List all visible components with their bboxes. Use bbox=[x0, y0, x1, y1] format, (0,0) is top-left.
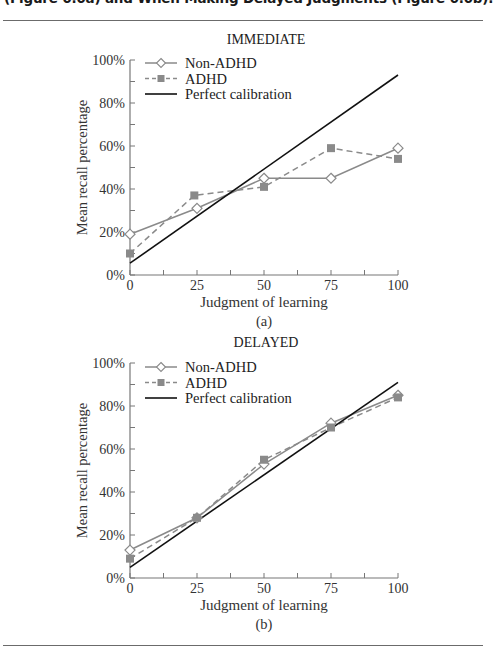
y-tick-label: 20% bbox=[99, 225, 125, 240]
non-adhd-marker-diamond-icon bbox=[259, 173, 269, 183]
x-tick-label: 0 bbox=[127, 278, 134, 293]
x-tick-label: 100 bbox=[388, 581, 409, 596]
x-axis-label: Judgment of learning bbox=[200, 294, 328, 310]
y-tick-label: 100% bbox=[92, 356, 125, 371]
non-adhd-marker-diamond-icon bbox=[393, 143, 403, 153]
adhd-marker-square-icon bbox=[193, 514, 201, 522]
x-tick-label: 100 bbox=[388, 278, 409, 293]
y-tick-label: 100% bbox=[92, 53, 125, 68]
legend-diamond-icon bbox=[157, 363, 166, 372]
y-axis-label: Mean recall percentage bbox=[74, 403, 90, 538]
x-tick-label: 75 bbox=[324, 278, 338, 293]
non-adhd-marker-diamond-icon bbox=[125, 545, 135, 555]
y-tick-label: 20% bbox=[99, 528, 125, 543]
x-tick-label: 50 bbox=[257, 581, 271, 596]
legend-label: Perfect calibration bbox=[185, 390, 292, 406]
y-tick-label: 80% bbox=[99, 96, 125, 111]
adhd-line bbox=[130, 148, 398, 253]
adhd-marker-square-icon bbox=[327, 424, 335, 432]
figure-charts: IMMEDIATE0%20%40%60%80%100%0255075100Jud… bbox=[0, 0, 496, 654]
adhd-marker-square-icon bbox=[394, 155, 402, 163]
x-tick-label: 25 bbox=[190, 278, 204, 293]
perfect-calibration-line bbox=[130, 75, 398, 263]
legend-label: ADHD bbox=[185, 375, 227, 391]
y-tick-label: 0% bbox=[106, 268, 125, 283]
non-adhd-marker-diamond-icon bbox=[326, 173, 336, 183]
adhd-marker-square-icon bbox=[260, 456, 268, 464]
adhd-marker-square-icon bbox=[394, 393, 402, 401]
y-tick-label: 60% bbox=[99, 442, 125, 457]
x-tick-label: 75 bbox=[324, 581, 338, 596]
y-tick-label: 40% bbox=[99, 485, 125, 500]
x-tick-label: 50 bbox=[257, 278, 271, 293]
adhd-marker-square-icon bbox=[327, 144, 335, 152]
legend-square-icon bbox=[158, 379, 165, 386]
non-adhd-marker-diamond-icon bbox=[192, 203, 202, 213]
adhd-marker-square-icon bbox=[190, 191, 198, 199]
legend-label: Perfect calibration bbox=[185, 86, 292, 102]
y-tick-label: 80% bbox=[99, 399, 125, 414]
non-adhd-marker-diamond-icon bbox=[125, 229, 135, 239]
legend-label: ADHD bbox=[185, 71, 227, 87]
x-tick-label: 25 bbox=[190, 581, 204, 596]
non-adhd-line bbox=[130, 148, 398, 234]
adhd-marker-square-icon bbox=[260, 183, 268, 191]
y-tick-label: 60% bbox=[99, 139, 125, 154]
y-axis-label: Mean recall percentage bbox=[74, 100, 90, 235]
legend-label: Non-ADHD bbox=[185, 359, 257, 375]
perfect-calibration-line bbox=[130, 382, 398, 567]
y-tick-label: 40% bbox=[99, 182, 125, 197]
non-adhd-line bbox=[130, 395, 398, 550]
x-axis-label: Judgment of learning bbox=[200, 597, 328, 613]
panel-label: (a) bbox=[256, 313, 272, 330]
legend-label: Non-ADHD bbox=[185, 55, 257, 71]
chart-title: IMMEDIATE bbox=[227, 32, 306, 47]
x-tick-label: 0 bbox=[127, 581, 134, 596]
y-tick-label: 0% bbox=[106, 571, 125, 586]
adhd-line bbox=[130, 397, 398, 558]
legend-square-icon bbox=[158, 75, 165, 82]
chart-title: DELAYED bbox=[234, 335, 299, 350]
adhd-marker-square-icon bbox=[126, 250, 134, 258]
legend-diamond-icon bbox=[157, 59, 166, 68]
adhd-marker-square-icon bbox=[126, 555, 134, 563]
panel-label: (b) bbox=[256, 616, 273, 633]
